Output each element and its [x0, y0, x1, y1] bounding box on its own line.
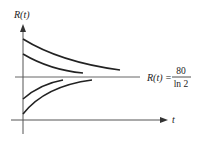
curve-above-1	[23, 39, 120, 70]
x-axis-label: t	[172, 114, 175, 125]
equilibrium-denominator: ln 2	[174, 79, 189, 89]
equilibrium-numerator: 80	[176, 66, 186, 76]
curve-above-2	[23, 54, 83, 73]
y-axis-arrow-icon	[20, 24, 26, 32]
curve-below-2	[23, 80, 92, 114]
x-axis-arrow-icon	[160, 117, 168, 123]
y-axis-label: R(t)	[13, 9, 30, 21]
solution-curves-diagram: R(t) t R(t) = 80 ln 2	[0, 0, 204, 144]
equilibrium-label-lhs: R(t) =	[146, 72, 172, 84]
